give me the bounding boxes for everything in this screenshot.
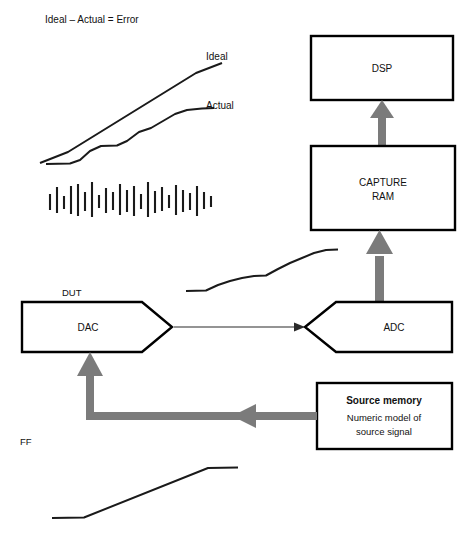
capture-ram-block[interactable] [311,146,455,230]
dac-block-label: DAC [77,322,98,333]
dut-label: DUT [62,287,82,298]
adc-block[interactable] [305,302,452,352]
ff-source-ramp-waveform [52,468,238,519]
diagram-canvas: Ideal – Actual = Error Ideal Actual [0,0,469,535]
title-equation: Ideal – Actual = Error [45,14,139,25]
actual-curve [46,108,214,164]
source-memory-line1: Numeric model of [347,412,422,423]
adc-block-label: ADC [383,322,404,333]
capture-ram-label-line1: CAPTURE [359,177,407,188]
ff-label: FF [20,436,32,447]
ideal-curve-label: Ideal [206,51,228,62]
ideal-curve [40,63,222,163]
source-memory-to-dac-arrow [77,352,317,428]
source-memory-line2: source signal [356,426,412,437]
capture-ram-to-dsp-arrow [370,100,394,146]
adc-to-capture-ram-arrow [366,230,393,304]
dac-output-waveform [186,250,338,292]
block-diagram: Ideal – Actual = Error Ideal Actual [0,0,469,535]
actual-curve-label: Actual [206,100,234,111]
capture-ram-label-line2: RAM [372,191,394,202]
dsp-block-label: DSP [372,63,393,74]
dac-to-adc-arrow [174,323,305,332]
source-memory-title: Source memory [346,395,422,406]
error-bar-plot [50,182,211,217]
